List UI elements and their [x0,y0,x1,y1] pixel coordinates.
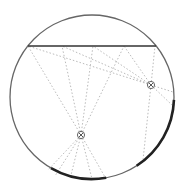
diagram-canvas [0,0,184,191]
dotted-rays-point-1 [28,46,173,160]
dotted-ray [62,46,151,85]
dotted-ray [55,135,81,176]
dotted-ray [151,46,155,85]
dotted-ray [81,46,124,135]
dotted-ray [48,135,81,170]
dotted-ray [70,135,81,179]
arc-bottom [51,168,106,179]
dotted-ray [93,46,151,85]
dotted-ray [62,46,81,135]
marked-points [77,81,154,138]
dotted-ray [143,85,151,160]
thick-arcs [51,100,174,179]
dotted-rays-point-2 [28,46,124,179]
dotted-ray [81,135,105,177]
dotted-ray [28,46,81,135]
point-marker-icon [77,131,84,138]
arc-right [137,100,174,166]
point-marker-icon [147,81,154,88]
dotted-ray [81,135,92,179]
dotted-ray [28,46,151,85]
geometry-diagram [0,0,184,191]
